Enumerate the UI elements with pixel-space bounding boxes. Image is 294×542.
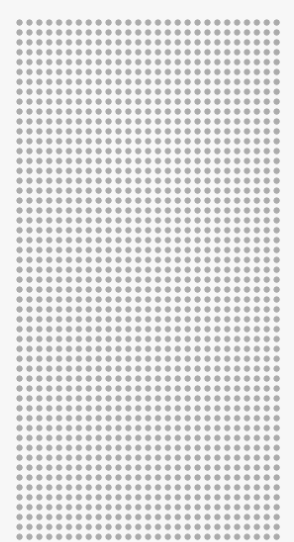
dot-grid-pattern [16, 19, 283, 542]
dot-grid-canvas [0, 0, 294, 542]
